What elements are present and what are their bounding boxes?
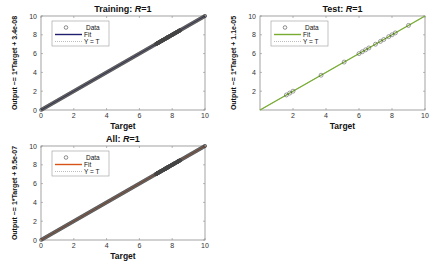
x-tick-label: 4 (105, 112, 109, 119)
y-tick-label: 8 (33, 161, 37, 168)
y-tick-label: 4 (33, 199, 37, 206)
x-tick-label: 10 (421, 112, 429, 119)
legend-label-data: Data (86, 24, 100, 31)
y-tick-label: 4 (252, 69, 256, 76)
legend-label-identity: Y = T (303, 38, 319, 45)
x-tick-label: 10 (201, 112, 209, 119)
legend-label-identity: Y = T (84, 38, 100, 45)
legend-label-fit: Fit (303, 31, 310, 38)
y-tick-label: 4 (33, 69, 37, 76)
y-tick-label: 10 (29, 143, 37, 150)
training-title: Training: R=1 (94, 4, 151, 14)
x-tick-label: 0 (39, 112, 43, 119)
x-tick-label: 8 (390, 112, 394, 119)
x-tick-label: 4 (324, 112, 328, 119)
all-plot-svg: 02468100246810DataFitY = TAll: R=1Target… (0, 130, 219, 265)
y-tick-label: 2 (252, 88, 256, 95)
x-tick-label: 2 (72, 242, 76, 249)
test-title: Test: R=1 (322, 4, 362, 14)
y-tick-label: 2 (33, 218, 37, 225)
x-tick-label: 6 (137, 242, 141, 249)
all-title: All: R=1 (106, 134, 140, 144)
legend-label-data: Data (305, 24, 319, 31)
training-regression-plot: 02468100246810DataFitY = TTraining: R=1T… (0, 0, 219, 132)
all-legend: DataFitY = T (52, 151, 109, 176)
all-y-axis-label: Output ~= 1*Target + 9.5e-07 (11, 146, 19, 240)
test-legend: DataFitY = T (271, 21, 328, 46)
x-tick-label: 8 (170, 242, 174, 249)
y-tick-label: 10 (248, 13, 256, 20)
all-regression-plot: 02468100246810DataFitY = TAll: R=1Target… (0, 130, 219, 265)
training-legend: DataFitY = T (52, 21, 109, 46)
x-tick-label: 6 (357, 112, 361, 119)
training-plot-svg: 02468100246810DataFitY = TTraining: R=1T… (0, 0, 219, 132)
x-tick-label: 0 (39, 242, 43, 249)
y-tick-label: 6 (33, 180, 37, 187)
x-tick-label: 4 (105, 242, 109, 249)
test-x-axis-label: Target (330, 121, 356, 131)
y-tick-label: 0 (33, 237, 37, 244)
y-tick-label: 10 (29, 13, 37, 20)
test-regression-plot: 246810246810DataFitY = TTest: R=1TargetO… (219, 0, 438, 132)
y-tick-label: 0 (33, 107, 37, 114)
y-tick-label: 8 (33, 31, 37, 38)
y-tick-label: 8 (252, 31, 256, 38)
x-tick-label: 8 (170, 112, 174, 119)
x-tick-label: 10 (201, 242, 209, 249)
test-plot-svg: 246810246810DataFitY = TTest: R=1TargetO… (219, 0, 438, 132)
y-tick-label: 6 (33, 50, 37, 57)
y-tick-label: 2 (33, 88, 37, 95)
x-tick-label: 6 (137, 112, 141, 119)
legend-label-fit: Fit (84, 161, 91, 168)
training-y-axis-label: Output ~= 1*Target + 3.4e-08 (11, 16, 19, 110)
x-tick-label: 2 (291, 112, 295, 119)
legend-label-fit: Fit (84, 31, 91, 38)
x-tick-label: 2 (72, 112, 76, 119)
legend-label-identity: Y = T (84, 168, 100, 175)
legend-label-data: Data (86, 154, 100, 161)
test-y-axis-label: Output ~= 1*Target + 1.1e-05 (230, 16, 238, 110)
all-x-axis-label: Target (110, 251, 136, 261)
y-tick-label: 6 (252, 50, 256, 57)
